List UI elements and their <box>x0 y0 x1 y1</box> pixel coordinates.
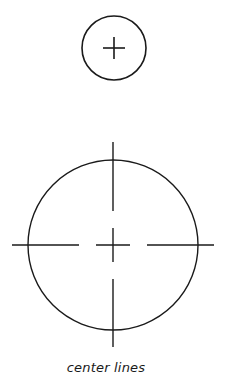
large-circle-group <box>12 142 214 347</box>
diagram-caption: center lines <box>0 360 212 375</box>
center-lines-diagram <box>0 0 237 380</box>
small-circle-group <box>82 16 146 80</box>
